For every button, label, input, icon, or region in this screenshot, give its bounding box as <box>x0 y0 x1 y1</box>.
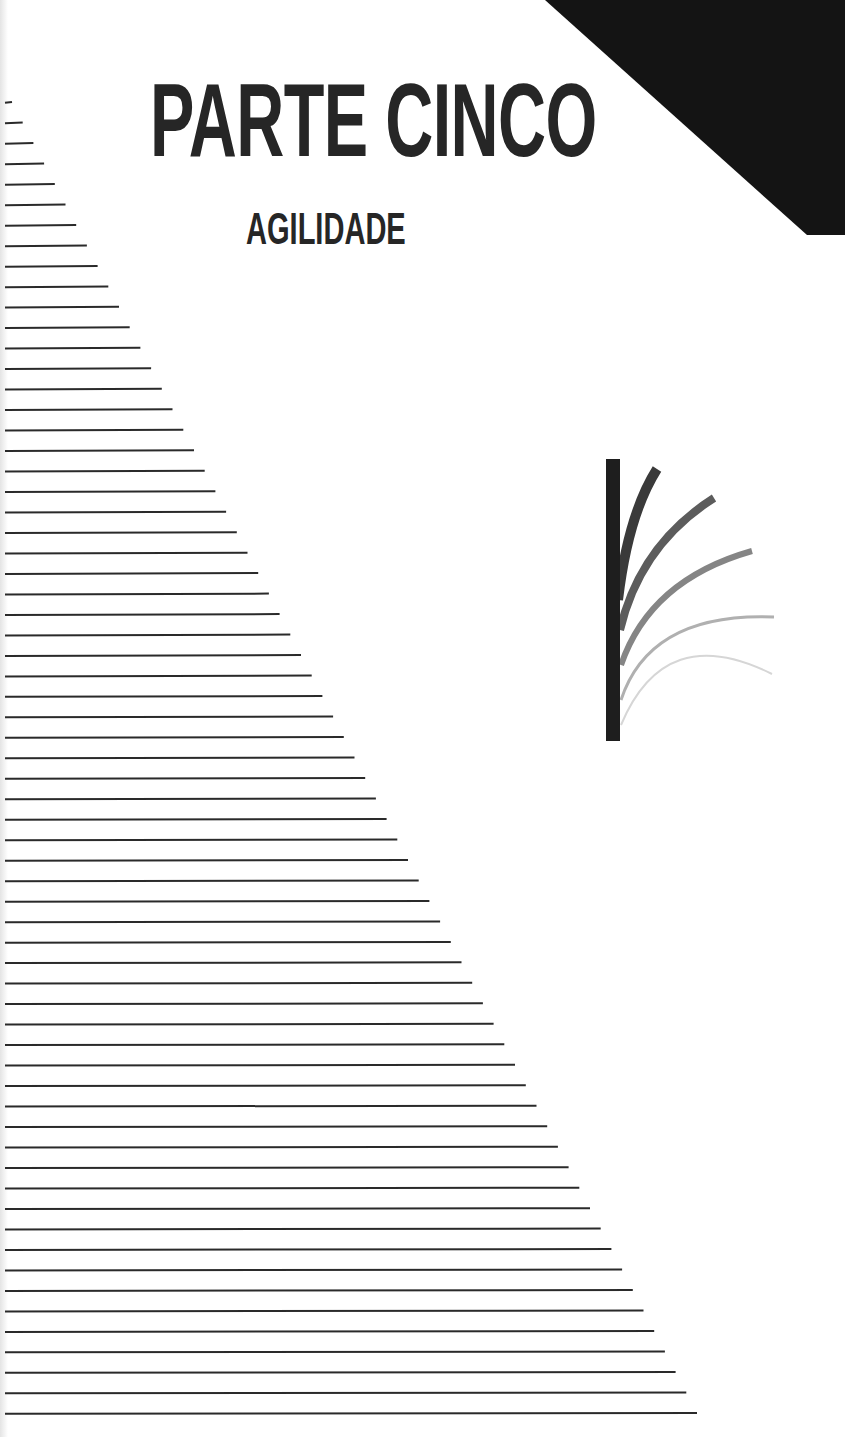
reed-upright-bar <box>606 459 620 741</box>
reed-curve <box>621 617 774 700</box>
bending-reeds-icon <box>0 0 845 1437</box>
reed-curve <box>621 656 772 725</box>
